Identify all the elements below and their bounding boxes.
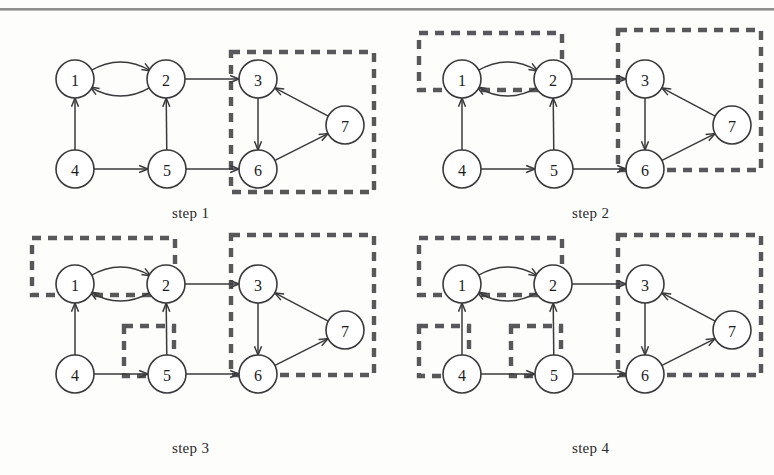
node-5[interactable]: 5 bbox=[535, 355, 573, 393]
graph-step-1: 1237456 bbox=[18, 22, 388, 197]
node-1[interactable]: 1 bbox=[56, 265, 94, 303]
node-label-5: 5 bbox=[163, 162, 171, 179]
node-5[interactable]: 5 bbox=[535, 150, 573, 188]
node-label-7: 7 bbox=[728, 323, 736, 340]
node-label-6: 6 bbox=[641, 162, 649, 179]
edge-layer bbox=[458, 62, 715, 173]
edge-layer bbox=[458, 267, 715, 378]
edge-layer bbox=[71, 267, 328, 378]
node-label-7: 7 bbox=[728, 118, 736, 135]
node-6[interactable]: 6 bbox=[239, 150, 277, 188]
node-7[interactable]: 7 bbox=[713, 311, 751, 349]
node-label-2: 2 bbox=[549, 277, 557, 294]
node-label-3: 3 bbox=[254, 72, 262, 89]
node-4[interactable]: 4 bbox=[56, 355, 94, 393]
node-3[interactable]: 3 bbox=[239, 265, 277, 303]
caption-step-2: step 2 bbox=[572, 205, 609, 222]
node-4[interactable]: 4 bbox=[56, 150, 94, 188]
node-3[interactable]: 3 bbox=[239, 60, 277, 98]
node-1[interactable]: 1 bbox=[443, 60, 481, 98]
group-box-3-6-7 bbox=[231, 235, 374, 375]
node-label-7: 7 bbox=[341, 323, 349, 340]
node-label-2: 2 bbox=[162, 277, 170, 294]
node-6[interactable]: 6 bbox=[239, 355, 277, 393]
node-label-2: 2 bbox=[549, 72, 557, 89]
node-label-3: 3 bbox=[254, 277, 262, 294]
caption-step-4: step 4 bbox=[572, 440, 609, 457]
node-label-1: 1 bbox=[458, 72, 466, 89]
node-2[interactable]: 2 bbox=[534, 60, 572, 98]
node-4[interactable]: 4 bbox=[443, 355, 481, 393]
node-3[interactable]: 3 bbox=[626, 60, 664, 98]
graph-step-2: 1237456 bbox=[405, 22, 774, 197]
node-label-1: 1 bbox=[71, 72, 79, 89]
node-label-6: 6 bbox=[254, 367, 262, 384]
top-divider-rule bbox=[0, 8, 774, 10]
node-6[interactable]: 6 bbox=[626, 355, 664, 393]
node-label-3: 3 bbox=[641, 72, 649, 89]
node-label-5: 5 bbox=[550, 162, 558, 179]
node-label-1: 1 bbox=[71, 277, 79, 294]
node-label-3: 3 bbox=[641, 277, 649, 294]
node-label-5: 5 bbox=[550, 367, 558, 384]
node-2[interactable]: 2 bbox=[147, 60, 185, 98]
node-1[interactable]: 1 bbox=[443, 265, 481, 303]
node-6[interactable]: 6 bbox=[626, 150, 664, 188]
figure-page: 1237456123745612374561237456 step 1step … bbox=[0, 0, 774, 475]
node-7[interactable]: 7 bbox=[326, 106, 364, 144]
caption-step-1: step 1 bbox=[172, 205, 209, 222]
node-label-6: 6 bbox=[641, 367, 649, 384]
group-box-3-6-7 bbox=[618, 30, 761, 170]
node-label-5: 5 bbox=[163, 367, 171, 384]
node-label-6: 6 bbox=[254, 162, 262, 179]
edge-layer bbox=[71, 62, 328, 173]
group-box-3-6-7 bbox=[618, 235, 761, 375]
node-2[interactable]: 2 bbox=[534, 265, 572, 303]
node-5[interactable]: 5 bbox=[148, 355, 186, 393]
node-label-4: 4 bbox=[458, 162, 466, 179]
node-4[interactable]: 4 bbox=[443, 150, 481, 188]
node-2[interactable]: 2 bbox=[147, 265, 185, 303]
graph-step-4: 1237456 bbox=[405, 227, 774, 402]
node-label-4: 4 bbox=[71, 367, 79, 384]
graph-step-3: 1237456 bbox=[18, 227, 388, 402]
caption-step-3: step 3 bbox=[172, 440, 209, 457]
node-label-2: 2 bbox=[162, 72, 170, 89]
node-label-1: 1 bbox=[458, 277, 466, 294]
node-7[interactable]: 7 bbox=[713, 106, 751, 144]
node-3[interactable]: 3 bbox=[626, 265, 664, 303]
node-label-4: 4 bbox=[458, 367, 466, 384]
node-7[interactable]: 7 bbox=[326, 311, 364, 349]
node-label-7: 7 bbox=[341, 118, 349, 135]
node-1[interactable]: 1 bbox=[56, 60, 94, 98]
node-label-4: 4 bbox=[71, 162, 79, 179]
node-5[interactable]: 5 bbox=[148, 150, 186, 188]
